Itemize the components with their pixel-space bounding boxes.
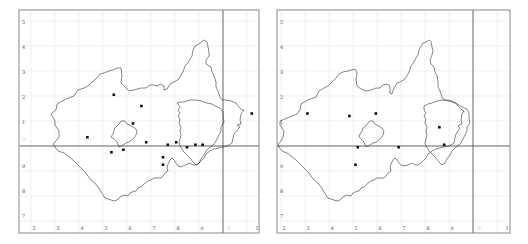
record-dot — [354, 163, 357, 166]
record-dot — [375, 112, 378, 115]
row-label: 5 — [22, 19, 25, 25]
column-label: 1 — [505, 225, 508, 231]
record-dot — [162, 156, 165, 159]
record-dot — [348, 115, 351, 118]
record-dot — [86, 136, 89, 139]
row-labels: 543210987 — [22, 19, 25, 219]
column-label: 2 — [282, 225, 285, 231]
record-dot — [145, 141, 148, 144]
column-label: 3 — [306, 225, 309, 231]
county-boundary — [51, 40, 244, 201]
row-label: 8 — [280, 188, 283, 194]
column-label: 6 — [128, 225, 131, 231]
row-label: 3 — [280, 69, 283, 75]
column-label: 8 — [426, 225, 429, 231]
record-dot — [132, 122, 135, 125]
column-label: 9 — [200, 225, 203, 231]
column-label: 0 — [477, 225, 480, 231]
column-labels: 2345678901 — [282, 225, 508, 231]
column-label: 5 — [104, 225, 107, 231]
column-labels: 2345678901 — [32, 225, 258, 231]
column-label: 7 — [402, 225, 405, 231]
record-dot — [438, 126, 441, 129]
record-dot — [167, 143, 170, 146]
column-label: 3 — [56, 225, 59, 231]
record-dot — [110, 151, 113, 154]
column-label: 1 — [255, 225, 258, 231]
row-label: 2 — [280, 94, 283, 100]
record-dot — [122, 148, 125, 151]
row-label: 9 — [22, 163, 25, 169]
record-dots — [306, 112, 445, 166]
city-boundary — [111, 121, 137, 147]
column-label: 2 — [32, 225, 35, 231]
distribution-map-left: 2345678901 543210987 — [0, 0, 264, 244]
column-label: 0 — [227, 225, 230, 231]
column-label: 8 — [176, 225, 179, 231]
record-dot — [186, 146, 189, 149]
record-dot — [140, 105, 143, 108]
row-label: 7 — [22, 213, 25, 219]
column-label: 7 — [152, 225, 155, 231]
column-label: 9 — [450, 225, 453, 231]
district-boundary — [177, 100, 224, 165]
row-label: 0 — [280, 136, 283, 142]
row-label: 4 — [280, 44, 283, 50]
record-dot — [251, 112, 254, 115]
row-label: 7 — [280, 213, 283, 219]
row-label: 1 — [280, 119, 283, 125]
row-label: 4 — [22, 44, 25, 50]
district-boundary — [424, 100, 470, 165]
column-label: 4 — [330, 225, 333, 231]
record-dots — [86, 93, 253, 166]
row-label: 1 — [22, 119, 25, 125]
record-dot — [357, 146, 360, 149]
record-dot — [397, 146, 400, 149]
row-label: 5 — [280, 19, 283, 25]
map-frame — [277, 10, 510, 233]
county-boundary — [278, 40, 464, 201]
row-label: 0 — [22, 136, 25, 142]
column-label: 4 — [80, 225, 83, 231]
city-boundary — [359, 121, 384, 147]
grid — [277, 10, 510, 233]
record-dot — [162, 163, 165, 166]
row-label: 3 — [22, 69, 25, 75]
record-dot — [306, 112, 309, 115]
record-dot — [194, 143, 197, 146]
major-grid-lines — [277, 10, 510, 233]
record-dot — [443, 143, 446, 146]
record-dot — [175, 141, 178, 144]
row-label: 9 — [280, 163, 283, 169]
row-label: 8 — [22, 188, 25, 194]
row-labels: 543210987 — [280, 19, 283, 219]
column-label: 5 — [354, 225, 357, 231]
record-dot — [113, 93, 116, 96]
record-dot — [201, 143, 204, 146]
column-label: 6 — [378, 225, 381, 231]
row-label: 2 — [22, 94, 25, 100]
